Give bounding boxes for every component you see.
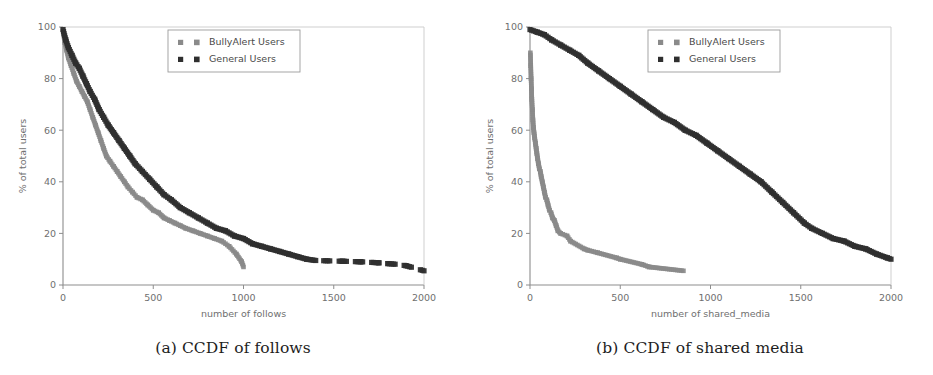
legend-marker bbox=[674, 57, 680, 63]
caption-panel-b: (b) CCDF of shared media bbox=[467, 339, 933, 357]
legend-label: General Users bbox=[209, 53, 276, 64]
y-tick-label: 20 bbox=[511, 228, 523, 239]
legend-marker bbox=[194, 40, 200, 46]
x-tick-label: 2000 bbox=[879, 292, 903, 303]
y-tick-label: 40 bbox=[44, 176, 56, 187]
y-tick-label: 100 bbox=[505, 21, 523, 32]
chart-legend[interactable]: BullyAlert UsersGeneral Users bbox=[648, 30, 780, 72]
y-tick-label: 0 bbox=[517, 279, 523, 290]
y-tick-label: 80 bbox=[44, 73, 56, 84]
legend-marker bbox=[658, 57, 663, 62]
x-tick-label: 1500 bbox=[322, 292, 346, 303]
x-tick-label: 0 bbox=[60, 292, 66, 303]
figure-container: 0500100015002000020406080100number of fo… bbox=[0, 0, 933, 375]
x-tick-label: 1500 bbox=[789, 292, 813, 303]
legend-marker bbox=[178, 40, 183, 45]
x-tick-label: 1000 bbox=[231, 292, 255, 303]
legend-label: BullyAlert Users bbox=[689, 36, 765, 47]
x-tick-label: 500 bbox=[144, 292, 162, 303]
y-tick-label: 80 bbox=[511, 73, 523, 84]
y-tick-label: 60 bbox=[511, 125, 523, 136]
caption-panel-a: (a) CCDF of follows bbox=[0, 339, 466, 357]
legend-marker bbox=[194, 57, 200, 63]
chart-legend[interactable]: BullyAlert UsersGeneral Users bbox=[168, 30, 300, 72]
chart-ccdf-follows: 0500100015002000020406080100number of fo… bbox=[0, 0, 466, 330]
legend-marker bbox=[178, 57, 183, 62]
y-axis-label: % of total users bbox=[17, 119, 28, 194]
y-tick-label: 0 bbox=[50, 279, 56, 290]
x-tick-label: 2000 bbox=[412, 292, 436, 303]
legend-label: BullyAlert Users bbox=[209, 36, 285, 47]
panel-ccdf-shared-media: 0500100015002000020406080100number of sh… bbox=[467, 0, 933, 375]
x-axis-label: number of shared_media bbox=[651, 308, 770, 319]
y-tick-label: 40 bbox=[511, 176, 523, 187]
chart-ccdf-shared-media: 0500100015002000020406080100number of sh… bbox=[467, 0, 933, 330]
y-tick-label: 100 bbox=[38, 21, 56, 32]
legend-label: General Users bbox=[689, 53, 756, 64]
x-tick-label: 1000 bbox=[698, 292, 722, 303]
series-bullyalert-users bbox=[528, 51, 686, 274]
x-tick-label: 500 bbox=[611, 292, 629, 303]
y-tick-label: 60 bbox=[44, 125, 56, 136]
x-axis-label: number of follows bbox=[201, 308, 286, 319]
x-tick-label: 0 bbox=[527, 292, 533, 303]
legend-marker bbox=[658, 40, 663, 45]
y-tick-label: 20 bbox=[44, 228, 56, 239]
panel-ccdf-follows: 0500100015002000020406080100number of fo… bbox=[0, 0, 466, 375]
legend-marker bbox=[674, 40, 680, 46]
y-axis-label: % of total users bbox=[484, 119, 495, 194]
